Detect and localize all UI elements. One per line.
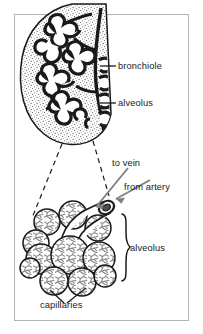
lung-anatomy-figure: bronchiole alveolus to vein from artery …	[0, 0, 203, 334]
label-bronchiole: bronchiole	[118, 61, 162, 72]
lung-anatomy-illustration	[0, 0, 203, 334]
label-capillaries: capillaries	[40, 300, 82, 311]
label-alveolus-top: alveolus	[118, 98, 153, 109]
label-alveolus-bottom: alveolus	[130, 243, 165, 254]
label-to-vein: to vein	[112, 158, 140, 169]
label-from-artery: from artery	[124, 182, 170, 193]
